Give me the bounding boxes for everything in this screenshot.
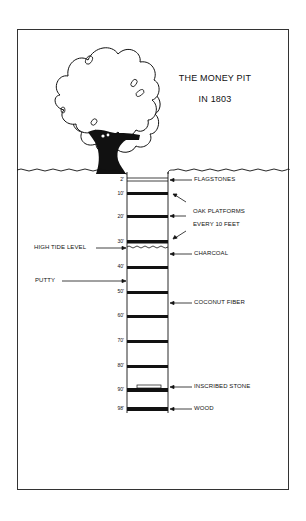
- depth-label: 98': [110, 405, 124, 411]
- label-every-10-feet: EVERY 10 FEET: [193, 221, 240, 227]
- label-coconut-fiber: COCONUT FIBER: [194, 299, 245, 305]
- depth-label: 30': [110, 238, 124, 244]
- diagram-title-line1: THE MONEY PIT: [165, 73, 265, 83]
- depth-label: 50': [110, 288, 124, 294]
- depth-label: 20': [110, 213, 124, 219]
- depth-label: 40': [110, 263, 124, 269]
- tree-icon: [55, 48, 160, 174]
- depth-label: 70': [110, 337, 124, 343]
- label-high-tide-level: HIGH TIDE LEVEL: [34, 244, 86, 250]
- shaft: [127, 172, 168, 413]
- depth-label: 90': [110, 386, 124, 392]
- diagram-title-line2: IN 1803: [165, 94, 265, 104]
- label-putty: PUTTY: [35, 277, 55, 283]
- label-oak-platforms: OAK PLATFORMS: [193, 208, 245, 214]
- label-flagstones: FLAGSTONES: [194, 176, 235, 182]
- label-inscribed-stone: INSCRIBED STONE: [194, 383, 250, 389]
- depth-label: 60': [110, 312, 124, 318]
- label-charcoal: CHARCOAL: [194, 250, 228, 256]
- depth-label: 10': [110, 190, 124, 196]
- depth-label: 2': [110, 176, 124, 182]
- depth-label: 80': [110, 362, 124, 368]
- label-wood: WOOD: [194, 405, 214, 411]
